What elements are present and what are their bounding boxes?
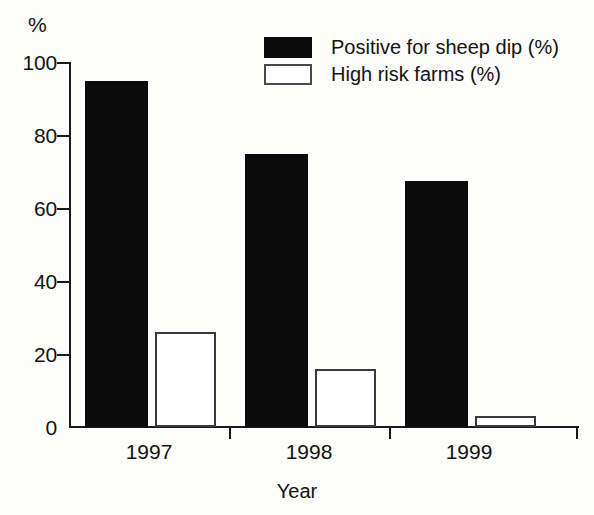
y-tick-label-40: 40 xyxy=(7,271,57,292)
y-tick-label-60: 60 xyxy=(7,198,57,219)
bar-1998-positive xyxy=(245,154,308,427)
bar-1998-high-risk xyxy=(315,369,376,427)
x-category-label-1999: 1999 xyxy=(409,441,529,463)
x-tick-2 xyxy=(389,428,391,439)
y-tick-label-100: 100 xyxy=(7,52,57,73)
bar-1999-positive xyxy=(405,181,468,427)
x-category-label-1998: 1998 xyxy=(249,441,369,463)
y-tick-60 xyxy=(57,208,70,210)
x-category-label-1997: 1997 xyxy=(89,441,209,463)
x-tick-3 xyxy=(576,428,578,439)
plot-area xyxy=(70,63,578,427)
bar-1997-positive xyxy=(85,81,148,427)
legend-swatch-solid-icon xyxy=(264,37,312,58)
y-tick-label-20: 20 xyxy=(7,344,57,365)
x-axis-title: Year xyxy=(0,481,594,502)
legend-entry-positive: Positive for sheep dip (%) xyxy=(264,34,559,61)
chart-legend: Positive for sheep dip (%) High risk far… xyxy=(264,34,559,88)
bar-1997-high-risk xyxy=(155,332,216,427)
legend-swatch-hollow-icon xyxy=(264,64,312,85)
bar-chart: % 100 80 60 40 20 0 1997 1998 1999 Year … xyxy=(0,0,594,515)
legend-entry-high-risk: High risk farms (%) xyxy=(264,61,559,88)
y-tick-100 xyxy=(57,62,70,64)
y-tick-label-80: 80 xyxy=(7,125,57,146)
bar-1999-high-risk xyxy=(475,416,536,427)
y-tick-80 xyxy=(57,135,70,137)
y-tick-label-0: 0 xyxy=(7,417,57,438)
y-axis-unit-label: % xyxy=(28,14,47,35)
y-tick-20 xyxy=(57,354,70,356)
legend-label-high-risk: High risk farms (%) xyxy=(331,64,501,85)
legend-label-positive: Positive for sheep dip (%) xyxy=(331,37,559,58)
x-tick-1 xyxy=(229,428,231,439)
y-tick-40 xyxy=(57,281,70,283)
